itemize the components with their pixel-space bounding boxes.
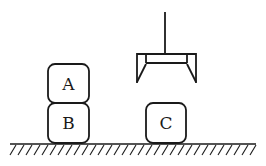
block-a-label: A [61, 74, 75, 94]
ground-hatching [10, 145, 256, 155]
block-c: C [146, 103, 186, 143]
block-b: B [48, 103, 89, 143]
blocks-world-diagram: A B C [0, 0, 266, 166]
robot-gripper-icon [137, 12, 196, 83]
block-c-label: C [159, 113, 172, 133]
block-a: A [48, 64, 89, 103]
gripper-left-jaw [137, 64, 146, 82]
block-b-label: B [62, 113, 75, 133]
gripper-right-jaw [187, 64, 196, 82]
